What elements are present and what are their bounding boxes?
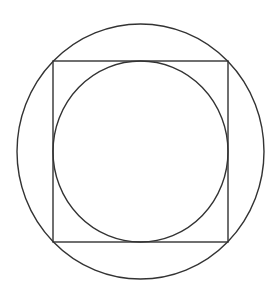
inner-circle — [53, 61, 228, 242]
square — [53, 61, 228, 242]
geometry-diagram — [0, 0, 280, 298]
outer-circle — [17, 24, 264, 279]
